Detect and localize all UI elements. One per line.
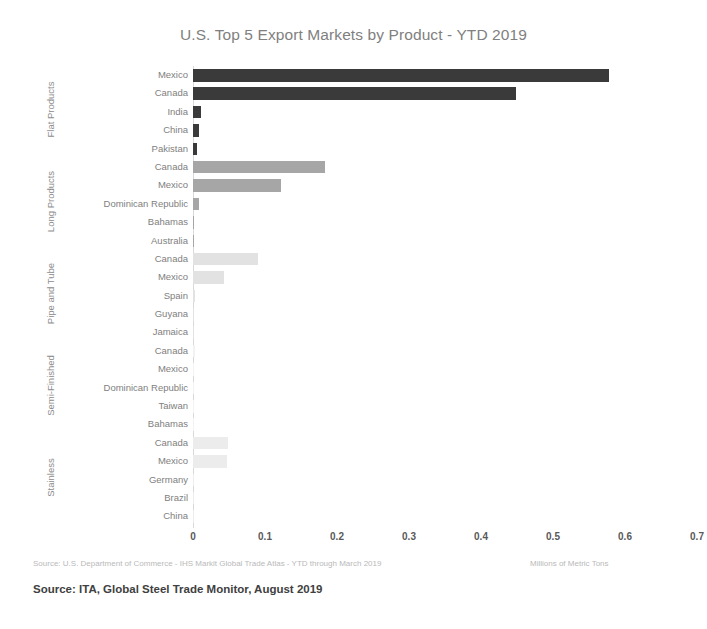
bar	[193, 510, 194, 523]
bar-row	[193, 195, 673, 213]
bar-row	[193, 268, 673, 286]
category-label: Canada	[58, 84, 188, 102]
bar-row	[193, 305, 673, 323]
bar	[193, 179, 281, 192]
bar	[193, 455, 227, 468]
category-label: China	[58, 507, 188, 525]
bar	[193, 198, 199, 211]
bar-row	[193, 415, 673, 433]
bar	[193, 474, 194, 487]
x-tick-label: 0	[173, 531, 213, 542]
category-label: Pakistan	[58, 140, 188, 158]
plot-area	[193, 66, 673, 526]
bar-row	[193, 121, 673, 139]
bar-row	[193, 287, 673, 305]
bar-row	[193, 360, 673, 378]
x-tick-label: 0.6	[605, 531, 645, 542]
group-label: Semi-Finished	[45, 340, 56, 432]
x-tick-label: 0.4	[461, 531, 501, 542]
category-label: Bahamas	[58, 415, 188, 433]
category-label: Jamaica	[58, 323, 188, 341]
bar-row	[193, 379, 673, 397]
bar	[193, 418, 194, 431]
group-label: Flat Products	[45, 64, 56, 156]
category-label: Mexico	[58, 268, 188, 286]
bar	[193, 345, 195, 358]
category-label: Australia	[58, 232, 188, 250]
page-title: U.S. Top 5 Export Markets by Product - Y…	[0, 26, 707, 44]
bar-row	[193, 250, 673, 268]
bar-row	[193, 397, 673, 415]
bar-row	[193, 323, 673, 341]
bar-row	[193, 158, 673, 176]
bar-row	[193, 452, 673, 470]
category-axis-labels: MexicoCanadaIndiaChinaPakistanCanadaMexi…	[58, 66, 188, 526]
bar	[193, 308, 194, 321]
bar	[193, 363, 194, 376]
category-label: Germany	[58, 471, 188, 489]
x-tick-label: 0.1	[245, 531, 285, 542]
source-note: Source: U.S. Department of Commerce - IH…	[33, 559, 381, 568]
category-label: Taiwan	[58, 397, 188, 415]
bar	[193, 271, 224, 284]
category-label: Canada	[58, 158, 188, 176]
bar	[193, 400, 194, 413]
category-label: Mexico	[58, 66, 188, 84]
group-axis-labels: Flat ProductsLong ProductsPipe and TubeS…	[30, 66, 54, 526]
bar-row	[193, 342, 673, 360]
bar-row	[193, 471, 673, 489]
category-label: Spain	[58, 287, 188, 305]
bar-row	[193, 213, 673, 231]
group-label: Stainless	[45, 432, 56, 524]
bar-row	[193, 140, 673, 158]
category-label: Canada	[58, 434, 188, 452]
source-bold-note: Source: ITA, Global Steel Trade Monitor,…	[33, 583, 322, 595]
bar	[193, 69, 609, 82]
group-label: Pipe and Tube	[45, 248, 56, 340]
bar	[193, 290, 195, 303]
bar	[193, 161, 325, 174]
bar	[193, 492, 194, 505]
bar	[193, 235, 194, 248]
category-label: China	[58, 121, 188, 139]
bar-row	[193, 66, 673, 84]
bar	[193, 143, 197, 156]
bar-rows	[193, 66, 673, 526]
x-axis-ticks: 00.10.20.30.40.50.60.7	[0, 531, 707, 551]
category-label: Guyana	[58, 305, 188, 323]
bar-row	[193, 103, 673, 121]
bar	[193, 382, 194, 395]
x-tick-label: 0.3	[389, 531, 429, 542]
bar-row	[193, 507, 673, 525]
group-label: Long Products	[45, 156, 56, 248]
category-label: Canada	[58, 342, 188, 360]
bar-row	[193, 434, 673, 452]
category-label: Mexico	[58, 176, 188, 194]
bar	[193, 253, 258, 266]
units-note: Millions of Metric Tons	[530, 559, 609, 568]
bar-row	[193, 489, 673, 507]
category-label: Dominican Republic	[58, 379, 188, 397]
category-label: Bahamas	[58, 213, 188, 231]
bar	[193, 326, 194, 339]
category-label: India	[58, 103, 188, 121]
category-label: Mexico	[58, 360, 188, 378]
category-label: Mexico	[58, 452, 188, 470]
chart-figure: U.S. Top 5 Export Markets by Product - Y…	[0, 0, 707, 629]
bar-row	[193, 176, 673, 194]
bar	[193, 87, 516, 100]
x-tick-label: 0.7	[677, 531, 707, 542]
bar	[193, 124, 199, 137]
bar-row	[193, 232, 673, 250]
x-tick-label: 0.2	[317, 531, 357, 542]
bar	[193, 106, 201, 119]
bar	[193, 437, 228, 450]
bar	[193, 216, 194, 229]
category-label: Dominican Republic	[58, 195, 188, 213]
bar-row	[193, 84, 673, 102]
category-label: Canada	[58, 250, 188, 268]
category-label: Brazil	[58, 489, 188, 507]
x-tick-label: 0.5	[533, 531, 573, 542]
